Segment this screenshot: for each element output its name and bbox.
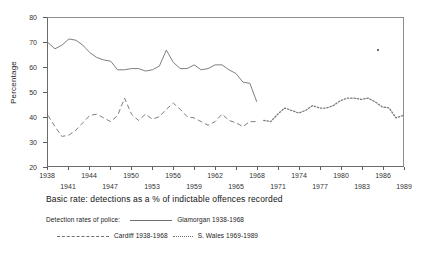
x-tick-mark	[383, 167, 384, 170]
x-tick-mark	[215, 167, 216, 170]
x-tick-mark	[173, 167, 174, 170]
x-tick-mark	[68, 167, 69, 170]
x-tick-mark	[257, 167, 258, 170]
chart-legend: Detection rates of police: Glamorgan 193…	[46, 214, 431, 242]
plot-area	[47, 17, 404, 167]
chart-title: Basic rate: detections as a % of indicta…	[46, 194, 431, 205]
y-axis-tick-labels: 20304050607080	[0, 0, 44, 184]
x-tick-mark	[299, 167, 300, 170]
x-tick-mark	[194, 167, 195, 170]
x-tick-label: 1980	[333, 172, 349, 179]
x-tick-label: 1962	[207, 172, 223, 179]
x-tick-mark	[131, 167, 132, 170]
x-tick-mark	[320, 167, 321, 170]
legend-label-swales: S. Wales 1969-1989	[198, 232, 258, 240]
legend-swatch-dotted-icon	[173, 236, 193, 238]
y-axis-title: Percentage	[9, 47, 18, 119]
legend-label-glamorgan: Glamorgan 1938-1968	[177, 216, 244, 224]
legend-row-1: Detection rates of police: Glamorgan 193…	[46, 214, 431, 226]
y-tick-label: 80	[29, 14, 37, 21]
x-tick-label: 1941	[60, 183, 76, 190]
x-axis: 1938194419501956196219681974198019861941…	[47, 167, 404, 193]
x-tick-label: 1983	[354, 183, 370, 190]
x-tick-label: 1971	[270, 183, 286, 190]
legend-swatch-dashed-icon	[57, 236, 109, 238]
y-tick-label: 50	[29, 89, 37, 96]
stray-mark-icon	[377, 49, 379, 51]
x-tick-label: 1968	[249, 172, 265, 179]
legend-label-cardiff: Cardiff 1938-1968	[114, 232, 168, 240]
caption-block: Basic rate: detections as a % of indicta…	[0, 194, 431, 242]
x-tick-mark	[341, 167, 342, 170]
series-line-glamorgan	[48, 39, 257, 102]
series-line-cardiff	[48, 98, 257, 136]
x-tick-label: 1944	[81, 172, 97, 179]
x-tick-mark	[404, 167, 405, 170]
x-tick-mark	[278, 167, 279, 170]
y-tick-label: 30	[29, 139, 37, 146]
y-tick-label: 20	[29, 164, 37, 171]
x-tick-label: 1986	[375, 172, 391, 179]
y-tick-label: 70	[29, 39, 37, 46]
legend-swatch-solid-icon	[130, 220, 172, 222]
x-tick-mark	[362, 167, 363, 170]
x-tick-mark	[110, 167, 111, 170]
x-tick-label: 1956	[165, 172, 181, 179]
x-tick-label: 1977	[312, 183, 328, 190]
y-tick-label: 60	[29, 64, 37, 71]
chart-figure: 20304050607080 Percentage 19381944195019…	[0, 0, 431, 256]
x-tick-label: 1950	[123, 172, 139, 179]
x-tick-label: 1965	[228, 183, 244, 190]
x-tick-mark	[152, 167, 153, 170]
x-tick-mark	[89, 167, 90, 170]
legend-row-2: Cardiff 1938-1968 S. Wales 1969-1989	[52, 230, 431, 242]
x-tick-label: 1989	[396, 183, 412, 190]
x-tick-label: 1974	[291, 172, 307, 179]
x-tick-label: 1953	[144, 183, 160, 190]
series-line-s	[264, 98, 403, 121]
x-tick-label: 1947	[102, 183, 118, 190]
legend-intro-label: Detection rates of police:	[46, 216, 120, 224]
y-tick-label: 40	[29, 114, 37, 121]
x-tick-label: 1959	[186, 183, 202, 190]
x-tick-mark	[47, 167, 48, 170]
series-layer	[48, 18, 403, 166]
x-tick-label: 1938	[39, 172, 55, 179]
x-tick-mark	[236, 167, 237, 170]
